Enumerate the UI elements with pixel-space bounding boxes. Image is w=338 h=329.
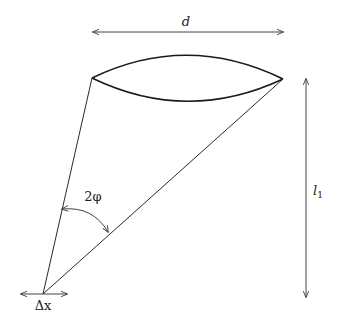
diameter-label: d <box>182 14 190 29</box>
lens-lower-surface <box>92 78 283 101</box>
lens-diagram: d 2φ l1 Δx <box>0 0 338 329</box>
angle-arc <box>62 209 108 232</box>
ray-left <box>43 78 92 294</box>
displacement-label: Δx <box>35 298 52 313</box>
lens-upper-surface <box>92 55 283 79</box>
distance-label: l1 <box>313 183 323 200</box>
angle-label: 2φ <box>84 189 101 204</box>
ray-right <box>43 79 283 294</box>
